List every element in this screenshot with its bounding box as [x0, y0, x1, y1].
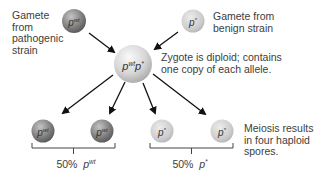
meiosis-note: Meiosis results in four haploid spores.: [244, 123, 313, 158]
arrow-zygote-to-spore-2: [110, 82, 125, 113]
meiosis-diagram: Gamete from pathogenic strain Gamete fro…: [0, 0, 325, 183]
spore-allele-4: p*: [218, 127, 226, 138]
zygote-allele: pwtp*: [122, 60, 143, 72]
gamete-benign-allele: p*: [189, 17, 197, 28]
group-pwt-percentage: 50% pwt: [56, 158, 95, 170]
arrow-pathogenic-to-zygote: [89, 33, 114, 52]
zygote-note: Zygote is diploid; contains one copy of …: [161, 52, 282, 75]
arrow-zygote-to-spore-3: [143, 83, 155, 113]
gamete-benign-label: Gamete from benign strain: [213, 11, 274, 34]
spore-allele-3: p*: [158, 127, 166, 138]
group-pstar-percentage: 50% p*: [172, 158, 207, 170]
arrow-benign-to-zygote: [155, 32, 178, 49]
arrow-zygote-to-spore-1: [63, 75, 113, 113]
bracket-pwt: [32, 143, 115, 154]
arrow-zygote-to-spore-4: [153, 74, 205, 114]
gamete-pathogenic-label: Gamete from pathogenic strain: [12, 10, 63, 56]
spore-allele-2: pwt: [96, 127, 108, 138]
spore-allele-1: pwt: [37, 127, 49, 138]
gamete-pathogenic-allele: pwt: [68, 17, 80, 28]
bracket-pstar: [150, 143, 233, 154]
